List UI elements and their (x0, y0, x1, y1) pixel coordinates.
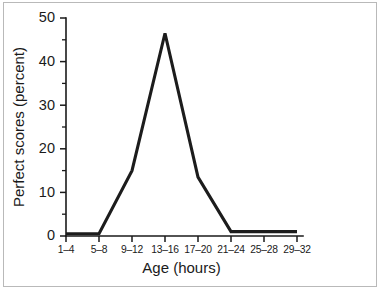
x-tick-label: 9–12 (121, 244, 144, 255)
x-tick-label: 1–4 (58, 244, 75, 255)
x-axis-title-group: Age (hours) (142, 259, 220, 276)
x-tick-label: 17–20 (184, 244, 212, 255)
y-tick-label: 40 (39, 53, 55, 69)
y-axis-title-group: Perfect scores (percent) (10, 47, 27, 207)
line-chart: 01020304050 1–45–89–1213–1617–2021–2425–… (0, 0, 380, 294)
y-tick-label: 10 (39, 184, 55, 200)
y-tick-label: 30 (39, 97, 55, 113)
y-tick-label: 20 (39, 140, 55, 156)
x-tick-label: 21–24 (217, 244, 245, 255)
y-tick-label: 50 (39, 9, 55, 25)
data-series (66, 33, 297, 234)
x-axis-title: Age (hours) (142, 259, 220, 276)
y-axis: 01020304050 (39, 9, 66, 243)
x-axis: 1–45–89–1213–1617–2021–2425–2829–32 (58, 236, 312, 255)
y-axis-title: Perfect scores (percent) (10, 47, 27, 207)
x-tick-label: 29–32 (283, 244, 311, 255)
y-tick-label: 0 (47, 227, 55, 243)
chart-figure: 01020304050 1–45–89–1213–1617–2021–2425–… (0, 0, 380, 294)
x-tick-label: 25–28 (250, 244, 278, 255)
x-tick-label: 13–16 (151, 244, 179, 255)
series-line-perfect-scores (66, 33, 297, 234)
x-tick-label: 5–8 (91, 244, 108, 255)
